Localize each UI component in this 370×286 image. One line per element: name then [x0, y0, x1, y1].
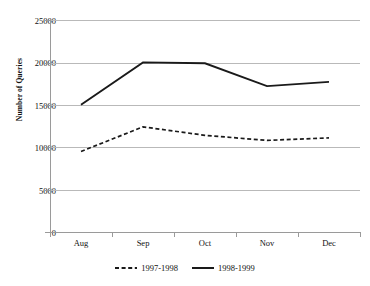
legend-swatch-solid [192, 265, 214, 271]
series-layer [0, 0, 370, 286]
chart-legend: 1997-1998 1998-1999 [0, 264, 370, 273]
series-line-1998-1999 [81, 62, 329, 104]
legend-item-1997-1998: 1997-1998 [115, 264, 178, 273]
legend-swatch-dashed [115, 265, 137, 271]
legend-label-1998-1999: 1998-1999 [218, 264, 255, 273]
legend-label-1997-1998: 1997-1998 [141, 264, 178, 273]
legend-item-1998-1999: 1998-1999 [192, 264, 255, 273]
line-chart: Number of Queries 25000 20000 15000 1000… [0, 0, 370, 286]
series-line-1997-1998 [81, 127, 329, 152]
